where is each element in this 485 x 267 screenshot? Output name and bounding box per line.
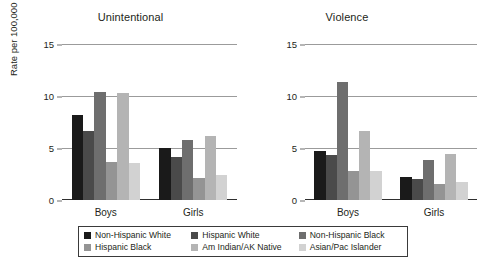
legend-label: Non-Hispanic Black bbox=[310, 230, 385, 240]
bar bbox=[117, 93, 128, 200]
bars bbox=[400, 44, 467, 200]
plot-area-violence: 15 10 5 0 Boys Girls bbox=[305, 44, 477, 200]
legend-item[interactable]: Am Indian/AK Native bbox=[191, 242, 294, 252]
bar bbox=[216, 175, 227, 200]
bar bbox=[83, 131, 94, 200]
legend-item[interactable]: Hispanic White bbox=[191, 230, 294, 240]
legend-swatch-icon bbox=[299, 244, 306, 251]
legend-label: Asian/Pac Islander bbox=[310, 242, 382, 252]
panel-unintentional: Unintentional Rate per 100,000 15 10 5 0… bbox=[0, 0, 243, 215]
x-tick-label-girls: Girls bbox=[391, 200, 477, 218]
bar bbox=[337, 82, 348, 200]
legend-swatch-icon bbox=[84, 244, 91, 251]
legend-swatch-icon bbox=[299, 232, 306, 239]
bar-group-girls: Girls bbox=[150, 44, 238, 200]
bar bbox=[456, 182, 467, 200]
y-tick-15: 15 bbox=[43, 39, 62, 50]
bar bbox=[445, 154, 456, 200]
bar bbox=[159, 148, 170, 200]
y-tick-0: 0 bbox=[49, 195, 62, 206]
bar bbox=[412, 179, 423, 200]
legend-swatch-icon bbox=[191, 232, 198, 239]
legend-swatch-icon bbox=[84, 232, 91, 239]
bars bbox=[314, 44, 381, 200]
bar bbox=[348, 171, 359, 200]
x-tick-label-girls: Girls bbox=[150, 200, 238, 218]
bar-group-boys: Boys bbox=[62, 44, 150, 200]
x-tick-label-boys: Boys bbox=[62, 200, 150, 218]
legend-item[interactable]: Hispanic Black bbox=[84, 242, 187, 252]
panel-title-unintentional: Unintentional bbox=[0, 11, 243, 23]
legend-label: Non-Hispanic White bbox=[95, 230, 171, 240]
legend-label: Hispanic White bbox=[202, 230, 259, 240]
x-tick-label-boys: Boys bbox=[305, 200, 391, 218]
y-tick-5: 5 bbox=[49, 143, 62, 154]
y-axis-label: Rate per 100,000 bbox=[8, 3, 19, 76]
legend-label: Am Indian/AK Native bbox=[202, 242, 281, 252]
bar bbox=[400, 177, 411, 200]
y-tick-15: 15 bbox=[286, 39, 305, 50]
bar bbox=[326, 155, 337, 200]
legend-swatch-icon bbox=[191, 244, 198, 251]
bars bbox=[159, 44, 227, 200]
bar-groups-unintentional: Boys Girls bbox=[62, 44, 237, 200]
y-tick-0: 0 bbox=[292, 195, 305, 206]
bar bbox=[171, 157, 182, 200]
chart-figure: Unintentional Rate per 100,000 15 10 5 0… bbox=[0, 0, 485, 267]
bar bbox=[72, 115, 83, 200]
panel-title-violence: Violence bbox=[243, 11, 485, 23]
bar bbox=[423, 160, 434, 200]
bar bbox=[434, 184, 445, 200]
bar bbox=[359, 131, 370, 200]
legend-item[interactable]: Non-Hispanic Black bbox=[299, 230, 402, 240]
bar-group-girls: Girls bbox=[391, 44, 477, 200]
y-tick-10: 10 bbox=[43, 91, 62, 102]
y-tick-5: 5 bbox=[292, 143, 305, 154]
bar bbox=[193, 178, 204, 200]
plot-area-unintentional: 15 10 5 0 Boys Girls bbox=[62, 44, 237, 200]
bar bbox=[182, 140, 193, 200]
legend-item[interactable]: Asian/Pac Islander bbox=[299, 242, 402, 252]
panel-violence: Violence 15 10 5 0 Boys Girls bbox=[243, 0, 485, 215]
bar bbox=[129, 163, 140, 200]
bars bbox=[72, 44, 140, 200]
bar bbox=[370, 171, 381, 200]
bar-group-boys: Boys bbox=[305, 44, 391, 200]
bar-groups-violence: Boys Girls bbox=[305, 44, 477, 200]
bar bbox=[314, 151, 325, 200]
bar bbox=[94, 92, 105, 200]
bar bbox=[205, 136, 216, 200]
chart-legend: Non-Hispanic WhiteHispanic WhiteNon-Hisp… bbox=[78, 226, 408, 257]
y-tick-10: 10 bbox=[286, 91, 305, 102]
legend-item[interactable]: Non-Hispanic White bbox=[84, 230, 187, 240]
bar bbox=[106, 162, 117, 200]
legend-label: Hispanic Black bbox=[95, 242, 151, 252]
